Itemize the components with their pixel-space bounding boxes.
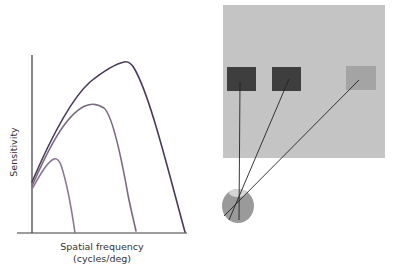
middle-dark-patch [272,67,301,91]
medium-contrast-curve [32,104,136,231]
high-contrast-curve [32,62,185,232]
x-axis-label: Spatial frequency [60,241,144,252]
eye [222,189,254,223]
y-axis-label: Sensitivity [8,127,19,177]
left-dark-patch [227,67,256,91]
right-light-patch [346,66,376,90]
viewing-diagram [222,5,385,223]
figure: Sensitivity Spatial frequency (cycles/de… [0,0,397,276]
low-contrast-curve [32,159,75,233]
x-axis-label-units: (cycles/deg) [73,253,131,264]
csf-chart: Sensitivity Spatial frequency (cycles/de… [8,55,187,264]
